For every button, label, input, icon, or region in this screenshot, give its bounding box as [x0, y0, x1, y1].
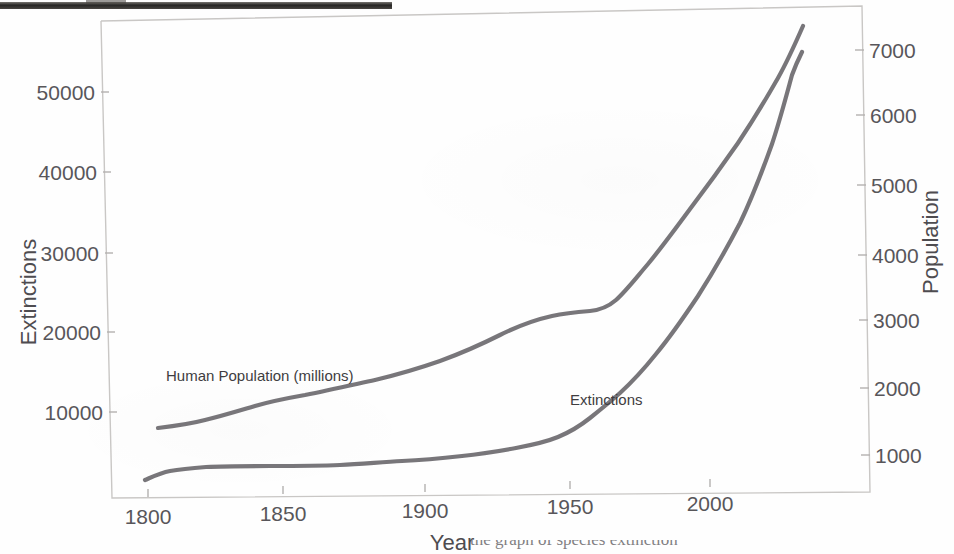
- annotation-extinctions: Extinctions: [570, 391, 643, 408]
- right-axis-tick-labels: 7000 6000 5000 4000 3000 2000 1000: [869, 39, 922, 467]
- left-axis-tick-labels: 50000 40000 30000 20000 10000: [37, 81, 103, 424]
- right-tick-label-4000: 4000: [872, 244, 919, 267]
- right-axis-title: Population: [918, 190, 943, 294]
- x-tick-label-1900: 1900: [402, 499, 449, 522]
- left-tick-label-30000: 30000: [41, 242, 99, 265]
- left-tick-label-40000: 40000: [39, 161, 97, 184]
- right-tick-label-6000: 6000: [870, 104, 917, 127]
- series-line-extinctions: [145, 52, 802, 480]
- annotation-human-population: Human Population (millions): [166, 367, 354, 384]
- left-axis-title: Extinctions: [16, 239, 41, 345]
- x-tick-label-1800: 1800: [125, 505, 172, 528]
- left-tick-label-10000: 10000: [45, 401, 103, 424]
- x-tick-label-1850: 1850: [260, 502, 307, 525]
- x-tick-label-2000: 2000: [687, 492, 734, 515]
- right-tick-label-3000: 3000: [873, 309, 920, 332]
- left-tick-label-50000: 50000: [37, 81, 95, 104]
- right-tick-label-7000: 7000: [869, 39, 916, 62]
- chart-figure: 50000 40000 30000 20000 10000 Extinction…: [0, 0, 954, 554]
- right-tick-label-1000: 1000: [875, 444, 922, 467]
- right-tick-label-2000: 2000: [874, 377, 921, 400]
- left-tick-label-20000: 20000: [43, 321, 101, 344]
- caption-fragment: the graph of species extinction: [470, 540, 678, 550]
- plot-frame: [101, 6, 870, 498]
- chart-plot-area: 50000 40000 30000 20000 10000 Extinction…: [0, 0, 954, 554]
- right-tick-label-5000: 5000: [871, 174, 918, 197]
- caption-clip-region: the graph of species extinction: [0, 540, 954, 554]
- x-tick-label-1950: 1950: [547, 495, 594, 518]
